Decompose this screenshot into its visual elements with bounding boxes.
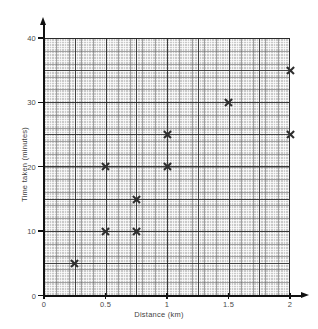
x-axis-title: Distance (km) xyxy=(0,310,318,319)
y-axis-tick-label: 20 xyxy=(27,162,36,171)
x-axis-tick xyxy=(289,293,290,299)
y-axis-tick xyxy=(38,37,44,38)
y-axis-line xyxy=(43,24,45,296)
y-axis-tick-label: 40 xyxy=(27,34,36,43)
y-axis-arrow-icon xyxy=(40,17,46,25)
x-axis-tick-label: 0.5 xyxy=(100,300,111,309)
y-axis-title: Time taken (minutes) xyxy=(20,95,29,235)
y-axis-tick xyxy=(38,166,44,167)
x-axis-tick-label: 0 xyxy=(42,300,46,309)
y-axis-tick-label: 10 xyxy=(27,227,36,236)
x-axis-tick xyxy=(105,293,106,299)
y-axis-tick xyxy=(38,230,44,231)
x-axis-tick-label: 2 xyxy=(288,300,292,309)
scatter-chart: 00.511.52 010203040 Distance (km) Time t… xyxy=(0,0,318,329)
x-axis-arrow-icon xyxy=(301,292,309,298)
data-point-marker xyxy=(132,227,141,236)
x-axis-tick xyxy=(166,293,167,299)
y-axis-tick-label: 30 xyxy=(27,98,36,107)
data-point-marker xyxy=(132,194,141,203)
data-point-marker xyxy=(70,259,79,268)
x-axis-line xyxy=(43,295,303,297)
data-point-marker xyxy=(163,162,172,171)
x-axis-tick-label: 1 xyxy=(165,300,169,309)
x-axis-tick xyxy=(228,293,229,299)
data-point-marker xyxy=(224,98,233,107)
plot-right-border xyxy=(289,38,290,296)
plot-top-border xyxy=(44,38,290,39)
y-axis-tick-label: 0 xyxy=(32,291,36,300)
y-axis-tick xyxy=(38,295,44,296)
data-point-marker xyxy=(101,227,110,236)
data-point-marker xyxy=(286,130,295,139)
x-axis-tick-label: 1.5 xyxy=(223,300,234,309)
data-point-marker xyxy=(286,66,295,75)
data-point-marker xyxy=(101,162,110,171)
y-axis-tick xyxy=(38,102,44,103)
data-point-marker xyxy=(163,130,172,139)
